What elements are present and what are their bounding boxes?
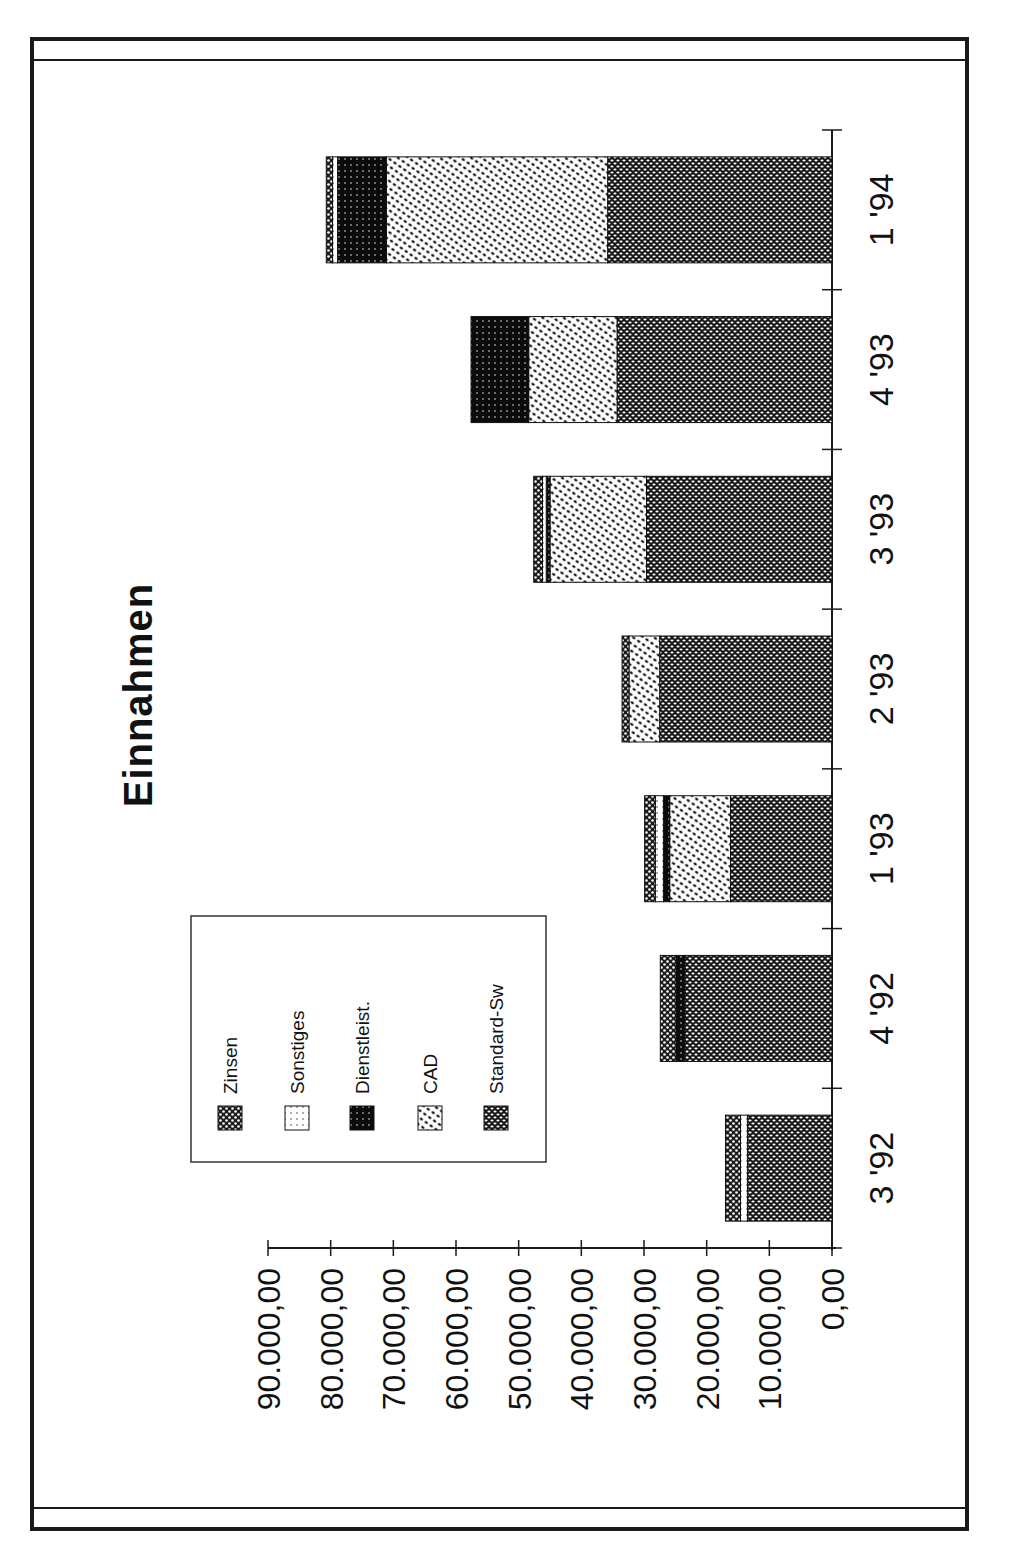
bar-segment-cad — [550, 476, 647, 582]
bar-segment-zinsen — [326, 157, 332, 263]
value-tick-label: 80.000,00 — [314, 1268, 350, 1410]
bar-193 — [645, 796, 832, 902]
bar-segment-cad — [529, 317, 617, 423]
category-label: 1 '93 — [862, 812, 900, 885]
legend-label: Zinsen — [220, 1037, 241, 1094]
legend-label: Dienstleist. — [352, 1001, 373, 1094]
value-tick-label: 0,00 — [815, 1268, 851, 1330]
value-tick-label: 10.000,00 — [752, 1268, 788, 1410]
value-tick-label: 70.000,00 — [376, 1268, 412, 1410]
chart-title: Einnahmen — [116, 583, 160, 808]
bar-segment-dienstleist — [663, 796, 669, 902]
legend-label: CAD — [420, 1054, 441, 1094]
chart-canvas: Einnahmen 0,0010.000,0020.000,0030.000,0… — [0, 0, 1013, 1562]
bar-segment-standardsw — [747, 1115, 832, 1221]
value-tick-label: 20.000,00 — [690, 1268, 726, 1410]
value-axis-ticks: 0,0010.000,0020.000,0030.000,0040.000,00… — [251, 1240, 851, 1410]
bar-segment-zinsen — [534, 476, 543, 582]
bar-segment-sonstiges — [655, 796, 663, 902]
bar-segment-zinsen — [622, 636, 629, 742]
category-label: 3 '92 — [862, 1132, 900, 1205]
bar-segment-dienstleist — [471, 317, 529, 423]
bar-492 — [660, 955, 832, 1061]
bar-segment-dienstleist — [338, 157, 387, 263]
value-tick-label: 40.000,00 — [564, 1268, 600, 1410]
bar-segment-standardsw — [617, 317, 832, 423]
category-label: 4 '93 — [862, 333, 900, 406]
bar-segment-dienstleist — [546, 476, 550, 582]
legend-swatch-sonstiges — [285, 1106, 309, 1130]
legend-label: Standard-Sw — [486, 984, 507, 1094]
value-tick-label: 60.000,00 — [439, 1268, 475, 1410]
bar-194 — [326, 157, 832, 263]
legend-swatch-dienstleist — [350, 1106, 374, 1130]
legend-label: Sonstiges — [287, 1011, 308, 1094]
bar-segment-standardsw — [730, 796, 832, 902]
bar-segment-standardsw — [608, 157, 832, 263]
category-label: 3 '93 — [862, 493, 900, 566]
category-label: 1 '94 — [862, 174, 900, 247]
bar-segment-zinsen — [645, 796, 656, 902]
bar-293 — [622, 636, 832, 742]
value-tick-label: 30.000,00 — [627, 1268, 663, 1410]
value-tick-label: 90.000,00 — [251, 1268, 287, 1410]
bar-493 — [471, 317, 832, 423]
bar-segment-cad — [386, 157, 607, 263]
bar-segment-sonstiges — [741, 1115, 748, 1221]
category-label: 4 '92 — [862, 972, 900, 1045]
value-tick-label: 50.000,00 — [502, 1268, 538, 1410]
bar-segment-sonstiges — [333, 157, 338, 263]
bar-segment-dienstleist — [676, 955, 685, 1061]
legend-swatch-standardsw — [484, 1106, 508, 1130]
bar-segment-zinsen — [660, 955, 676, 1061]
bar-segment-sonstiges — [542, 476, 546, 582]
bar-segment-standardsw — [660, 636, 832, 742]
bar-393 — [534, 476, 832, 582]
legend: ZinsenSonstigesDienstleist.CADStandard-S… — [191, 916, 546, 1162]
legend-swatch-zinsen — [218, 1106, 242, 1130]
bar-392 — [725, 1115, 832, 1221]
bar-segment-standardsw — [647, 476, 832, 582]
legend-swatch-cad — [418, 1106, 442, 1130]
bar-segment-standardsw — [685, 955, 832, 1061]
bar-segment-cad — [670, 796, 731, 902]
category-label: 2 '93 — [862, 653, 900, 726]
bar-segment-zinsen — [725, 1115, 740, 1221]
category-labels: 3 '924 '921 '932 '933 '934 '931 '94 — [862, 174, 900, 1205]
bar-segment-cad — [629, 636, 660, 742]
